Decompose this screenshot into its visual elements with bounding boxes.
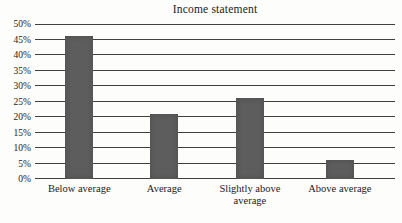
x-axis-label-slightly-above-average: Slightly above average bbox=[209, 183, 291, 208]
x-axis-label-below-average: Below average bbox=[38, 183, 120, 195]
y-axis-tick-label-50%: 50% bbox=[14, 19, 31, 29]
y-axis-tick-label-45%: 45% bbox=[14, 35, 31, 45]
bar-average bbox=[150, 114, 178, 179]
y-axis-tick-label-30%: 30% bbox=[14, 81, 31, 91]
chart-title: Income statement bbox=[35, 3, 395, 15]
gridline-50% bbox=[35, 24, 395, 25]
y-axis-tick-label-10%: 10% bbox=[14, 143, 31, 153]
y-axis-tick-label-35%: 35% bbox=[14, 66, 31, 76]
y-axis-tick-label-15%: 15% bbox=[14, 128, 31, 138]
y-axis-tick-label-40%: 40% bbox=[14, 50, 31, 60]
plot-area bbox=[35, 24, 395, 179]
bar-above-average bbox=[326, 160, 354, 179]
y-axis-tick-label-5%: 5% bbox=[18, 159, 31, 169]
y-axis-tick-label-25%: 25% bbox=[14, 97, 31, 107]
y-axis-tick-label-20%: 20% bbox=[14, 112, 31, 122]
y-axis-tick-labels: 0%5%10%15%20%25%30%35%40%45%50% bbox=[0, 0, 31, 223]
y-axis-tick-label-0%: 0% bbox=[18, 174, 31, 184]
bar-slightly-above-average bbox=[236, 98, 264, 179]
income-statement-bar-chart: Income statement 0%5%10%15%20%25%30%35%4… bbox=[0, 0, 402, 223]
x-axis-label-above-average: Above average bbox=[299, 183, 381, 195]
x-axis-category-labels: Below averageAverageSlightly above avera… bbox=[35, 183, 395, 223]
x-axis-label-average: Average bbox=[123, 183, 205, 195]
bar-below-average bbox=[65, 36, 93, 179]
